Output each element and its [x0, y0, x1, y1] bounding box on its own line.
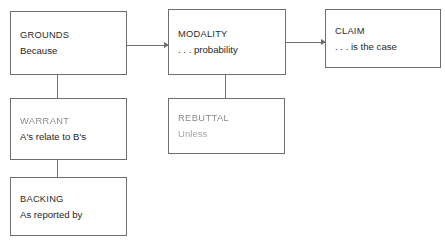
node-rebuttal-label: REBUTTAL	[178, 111, 284, 126]
connector-grounds-to-warrant-line	[57, 75, 58, 98]
node-grounds[interactable]: GROUNDS Because	[10, 11, 127, 75]
node-claim-detail: . . . is the case	[335, 39, 440, 54]
node-claim[interactable]: CLAIM . . . is the case	[325, 9, 441, 68]
node-grounds-label: GROUNDS	[20, 28, 126, 43]
node-backing-detail: As reported by	[20, 207, 126, 222]
node-grounds-detail: Because	[20, 43, 126, 58]
node-warrant-label: WARRANT	[20, 114, 126, 129]
node-rebuttal-detail: Unless	[178, 126, 284, 141]
node-warrant-detail: A's relate to B's	[20, 129, 126, 144]
node-modality-label: MODALITY	[178, 27, 285, 42]
node-claim-label: CLAIM	[335, 24, 440, 39]
connector-grounds-to-modality-arrow-icon	[127, 45, 168, 46]
connector-warrant-to-backing-line	[57, 160, 58, 177]
node-modality-detail: . . . probability	[178, 42, 285, 57]
node-backing[interactable]: BACKING As reported by	[10, 177, 127, 236]
node-warrant[interactable]: WARRANT A's relate to B's	[10, 98, 127, 160]
node-modality[interactable]: MODALITY . . . probability	[168, 9, 286, 75]
node-backing-label: BACKING	[20, 192, 126, 207]
connector-modality-to-claim-arrow-icon	[286, 42, 325, 43]
connector-modality-to-rebuttal-line	[225, 75, 226, 98]
diagram-canvas: GROUNDS Because MODALITY . . . probabili…	[0, 0, 445, 246]
node-rebuttal[interactable]: REBUTTAL Unless	[168, 98, 285, 154]
